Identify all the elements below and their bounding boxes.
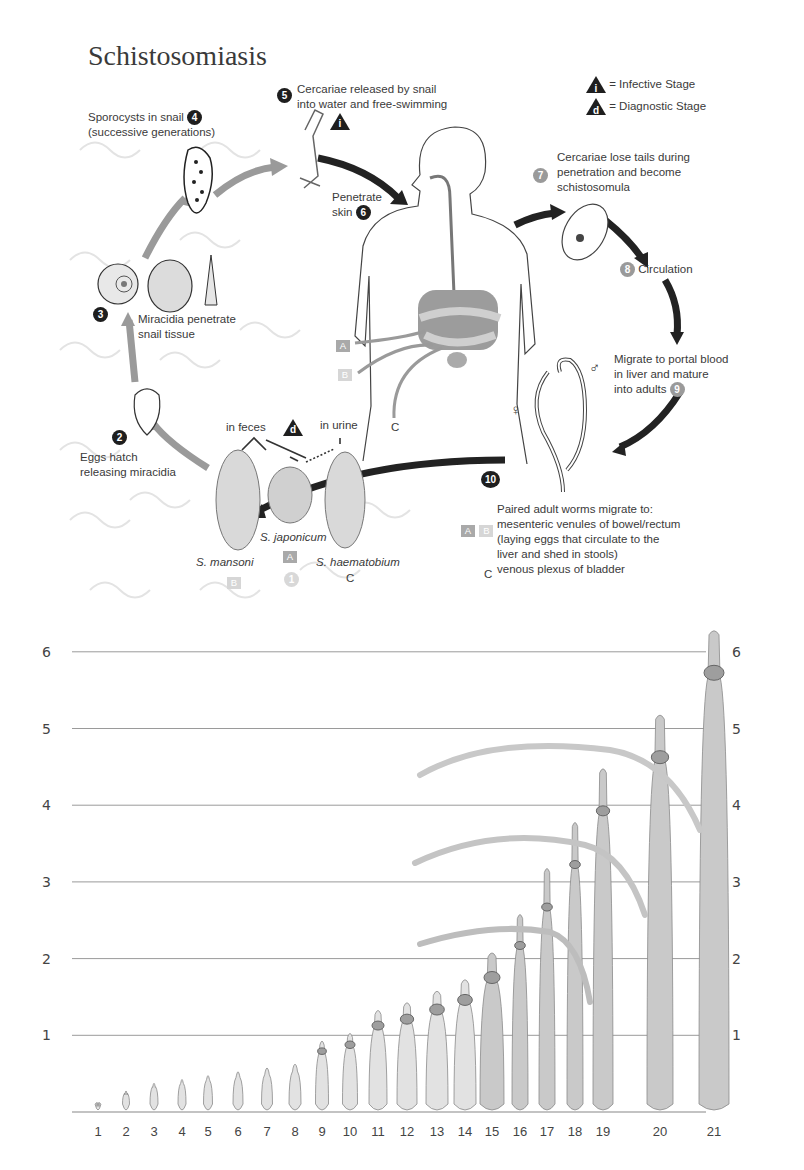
- specimen-8: [289, 1064, 301, 1110]
- specimen-21: [699, 631, 729, 1110]
- s-mansoni-label: S. mansoni: [196, 555, 254, 570]
- conical-snail-icon: [205, 255, 217, 305]
- specimen-4: [178, 1079, 186, 1110]
- y-tick-left-1: 1: [42, 1027, 51, 1043]
- sucker-13: [430, 1004, 445, 1015]
- s-haematobium-label: S. haematobium: [316, 555, 400, 570]
- sucker-12: [400, 1014, 413, 1024]
- sucker-18: [570, 861, 581, 869]
- sucker-17: [542, 903, 553, 911]
- step-4-badge: 4: [187, 110, 202, 125]
- in-feces-label: in feces: [226, 420, 266, 435]
- in-urine-label: in urine: [320, 418, 358, 433]
- sucker-19: [596, 806, 609, 816]
- round-snail-icon: [148, 260, 192, 312]
- x-tick-5: 5: [204, 1124, 211, 1139]
- y-tick-left-2: 2: [42, 951, 51, 967]
- step-9-badge: 9: [670, 382, 685, 397]
- x-tick-3: 3: [150, 1124, 157, 1139]
- sucker-9: [318, 1048, 327, 1055]
- x-tick-18: 18: [568, 1124, 582, 1139]
- specimen-5: [204, 1076, 213, 1110]
- step-8-label: 8 Circulation: [620, 262, 693, 277]
- cercaria-icon: [300, 110, 323, 188]
- egg-s-haematobium-icon: [325, 452, 365, 548]
- sporocyst-icon: [184, 147, 212, 213]
- step-10-tag-c: C: [484, 567, 492, 582]
- x-tick-2: 2: [122, 1124, 129, 1139]
- male-symbol: ♂: [589, 360, 600, 375]
- x-tick-13: 13: [430, 1124, 444, 1139]
- step-5-badge: 5: [277, 88, 292, 103]
- sucker-20: [651, 751, 668, 764]
- x-tick-10: 10: [343, 1124, 357, 1139]
- egg-s-japonicum-icon: [268, 467, 312, 523]
- step-3-label: Miracidia penetrate snail tissue: [138, 312, 236, 342]
- schistosomulum-icon: [553, 196, 618, 268]
- egg-s-mansoni-icon: [216, 450, 260, 550]
- step-8-badge: 8: [620, 262, 635, 277]
- step-5-label: 5 Cercariae released by snail into water…: [277, 82, 447, 112]
- x-tick-19: 19: [596, 1124, 610, 1139]
- y-tick-right-6: 6: [732, 644, 741, 660]
- x-tick-11: 11: [371, 1124, 385, 1139]
- x-tick-15: 15: [485, 1124, 499, 1139]
- diagnostic-stage-icon: d: [586, 98, 606, 115]
- x-tick-14: 14: [458, 1124, 472, 1139]
- sucker-14: [458, 994, 473, 1005]
- y-tick-left-3: 3: [42, 874, 51, 890]
- y-tick-left-4: 4: [42, 797, 51, 813]
- step-2-badge: 2: [112, 428, 127, 446]
- body-tag-a: A: [336, 335, 350, 353]
- body-tag-b: B: [338, 364, 352, 382]
- sucker-15: [484, 972, 500, 984]
- legend-diagnostic: d = Diagnostic Stage: [586, 98, 706, 115]
- x-tick-21: 21: [707, 1124, 721, 1139]
- s-japonicum-label: S. japonicum: [260, 530, 326, 545]
- specimen-2: [123, 1091, 130, 1110]
- s-mansoni-tag: B: [227, 572, 241, 590]
- legend-infective: i = Infective Stage: [586, 76, 695, 93]
- x-tick-7: 7: [263, 1124, 270, 1139]
- step-2-label: Eggs hatch releasing miracidia: [80, 450, 176, 480]
- sucker-10: [345, 1041, 355, 1049]
- step-5-infective-marker: i: [330, 112, 350, 130]
- step-1-badge: 1: [284, 570, 299, 588]
- y-tick-right-3: 3: [732, 874, 741, 890]
- x-tick-1: 1: [94, 1124, 101, 1139]
- step-9-label: Migrate to portal blood in liver and mat…: [614, 352, 728, 397]
- x-tick-8: 8: [291, 1124, 298, 1139]
- specimen-19: [593, 769, 613, 1110]
- step-10-label: Paired adult worms migrate to: mesenteri…: [497, 502, 680, 577]
- specimen-7: [262, 1068, 273, 1110]
- y-tick-right-1: 1: [732, 1027, 741, 1043]
- x-tick-4: 4: [178, 1124, 185, 1139]
- step-7-badge: 7: [533, 166, 548, 184]
- female-symbol: ♀: [510, 402, 521, 417]
- chart-plot-area: 112233445566: [0, 600, 804, 1170]
- sucker-21: [704, 665, 724, 680]
- x-tick-16: 16: [513, 1124, 527, 1139]
- step-4-label: Sporocysts in snail 4 (successive genera…: [88, 110, 215, 140]
- y-tick-right-2: 2: [732, 951, 741, 967]
- specimen-6: [233, 1072, 243, 1110]
- y-tick-left-6: 6: [42, 644, 51, 660]
- y-tick-left-5: 5: [42, 721, 51, 737]
- diagnostic-stage-marker: d: [283, 418, 303, 436]
- x-tick-20: 20: [653, 1124, 667, 1139]
- s-japonicum-tag: A: [283, 546, 297, 564]
- step-6-badge: 6: [356, 205, 371, 220]
- specimen-3: [150, 1083, 158, 1110]
- y-tick-right-4: 4: [732, 797, 741, 813]
- step-6-label: Penetrate skin 6: [332, 190, 382, 220]
- step-3-badge: 3: [93, 305, 108, 323]
- specimen-1: [95, 1102, 101, 1110]
- x-tick-6: 6: [234, 1124, 241, 1139]
- x-tick-17: 17: [540, 1124, 554, 1139]
- step-10-badge: 10: [481, 470, 500, 488]
- s-haematobium-tag: C: [346, 571, 354, 586]
- body-tag-c: C: [391, 420, 399, 435]
- specimen-tail-1: [420, 929, 590, 1002]
- step-10-tag-ab: A B: [461, 520, 493, 538]
- growth-chart: 112233445566: [0, 600, 804, 1170]
